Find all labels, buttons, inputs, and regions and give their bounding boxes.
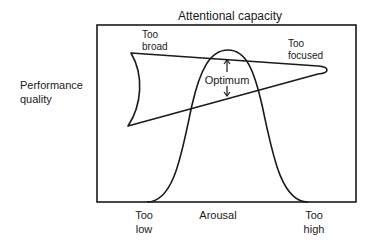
optimum-arrow-up-icon bbox=[224, 60, 230, 72]
optimum-arrow-down-icon bbox=[224, 86, 230, 96]
x-axis-right-label-line1: Too bbox=[305, 209, 323, 221]
optimum-label: Optimum bbox=[205, 74, 250, 86]
y-axis-label-line2: quality bbox=[20, 93, 52, 105]
x-axis-left-label-line1: Too bbox=[135, 209, 153, 221]
x-axis-label: Arousal bbox=[199, 209, 236, 221]
x-axis-left-label-line2: low bbox=[136, 223, 153, 235]
diagram-title: Attentional capacity bbox=[178, 9, 282, 23]
too-broad-label-line2: broad bbox=[142, 41, 168, 52]
too-broad-label-line1: Too bbox=[142, 29, 159, 40]
inverted-u-arousal-curve bbox=[147, 50, 308, 202]
too-focused-label-line2: focused bbox=[288, 50, 323, 61]
too-focused-label-line1: Too bbox=[288, 38, 305, 49]
y-axis-label-line1: Performance bbox=[20, 79, 83, 91]
attention-arousal-diagram: Attentional capacity Optimum Too broad T… bbox=[0, 0, 375, 247]
x-axis-right-label-line2: high bbox=[304, 223, 325, 235]
